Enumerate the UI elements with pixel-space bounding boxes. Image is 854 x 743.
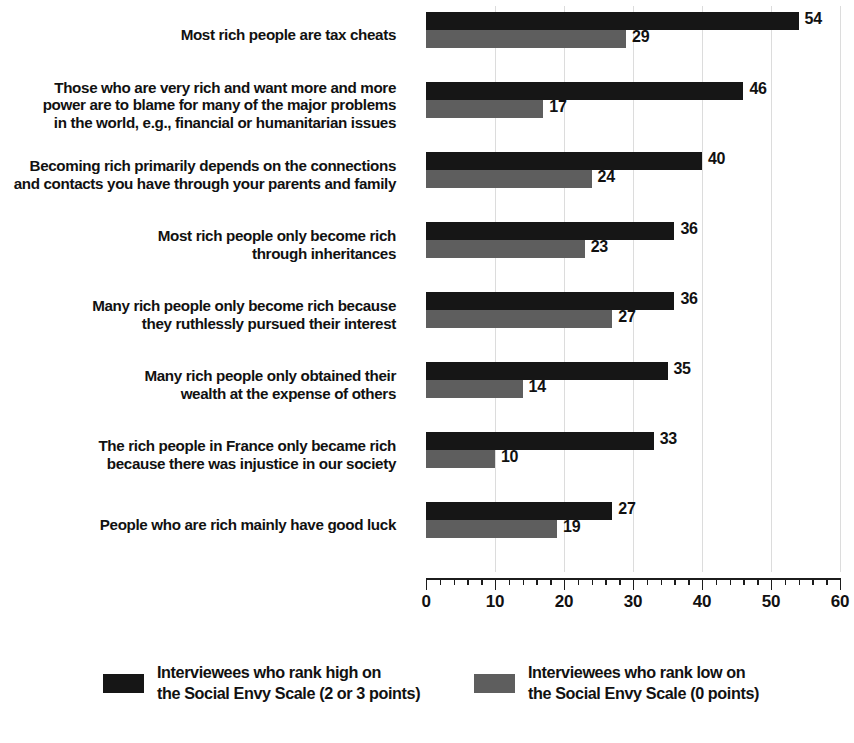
- bar-high[interactable]: [426, 12, 799, 30]
- bar-group: 3514: [426, 350, 854, 420]
- bar-value-label: 46: [749, 80, 766, 98]
- axis-tick-label: 0: [421, 592, 430, 612]
- legend-label-high: Interviewees who rank high on the Social…: [157, 662, 420, 704]
- bar-high[interactable]: [426, 152, 702, 170]
- axis-tick-major: [426, 578, 427, 590]
- axis-tick-label: 20: [555, 592, 573, 612]
- axis-tick-minor: [730, 578, 731, 585]
- bar-low[interactable]: [426, 100, 543, 118]
- axis-tick-label: 40: [693, 592, 711, 612]
- bar-high[interactable]: [426, 362, 668, 380]
- axis-tick-label: 50: [762, 592, 780, 612]
- axis-tick-minor: [785, 578, 786, 585]
- bar-value-label: 23: [591, 238, 608, 256]
- axis-tick-minor: [674, 578, 675, 585]
- bar-value-label: 27: [618, 500, 635, 518]
- bar-chart: Most rich people are tax cheats5429Those…: [0, 0, 854, 743]
- bar-value-label: 33: [660, 430, 677, 448]
- chart-row: Those who are very rich and want more an…: [0, 70, 854, 140]
- axis-tick-minor: [454, 578, 455, 585]
- bar-group: 3310: [426, 420, 854, 490]
- axis-tick-minor: [550, 578, 551, 585]
- bar-group: 5429: [426, 0, 854, 70]
- chart-row: Most rich people are tax cheats5429: [0, 0, 854, 70]
- chart-row: Becoming rich primarily depends on the c…: [0, 140, 854, 210]
- chart-row: Most rich people only become richthrough…: [0, 210, 854, 280]
- chart-legend: Interviewees who rank high on the Social…: [0, 648, 854, 743]
- value-axis: 0102030405060: [426, 578, 840, 624]
- bar-value-label: 54: [805, 10, 822, 28]
- axis-tick-minor: [716, 578, 717, 585]
- bar-value-label: 10: [501, 448, 518, 466]
- legend-entry-low[interactable]: Interviewees who rank low on the Social …: [474, 662, 759, 704]
- bar-value-label: 14: [529, 378, 546, 396]
- bar-high[interactable]: [426, 292, 674, 310]
- category-label: Most rich people only become richthrough…: [0, 210, 410, 280]
- bar-value-label: 36: [680, 290, 697, 308]
- category-label: The rich people in France only became ri…: [0, 420, 410, 490]
- bar-high[interactable]: [426, 502, 612, 520]
- bar-value-label: 19: [563, 518, 580, 536]
- bar-value-label: 29: [632, 28, 649, 46]
- axis-tick-minor: [440, 578, 441, 585]
- chart-row: Many rich people only become rich becaus…: [0, 280, 854, 350]
- axis-tick-major: [495, 578, 496, 590]
- axis-tick-major: [840, 578, 841, 590]
- axis-tick-minor: [799, 578, 800, 585]
- bar-low[interactable]: [426, 30, 626, 48]
- bar-group: 4024: [426, 140, 854, 210]
- axis-tick-minor: [743, 578, 744, 585]
- bar-low[interactable]: [426, 520, 557, 538]
- bar-value-label: 35: [674, 360, 691, 378]
- axis-tick-minor: [647, 578, 648, 585]
- axis-tick-minor: [812, 578, 813, 585]
- legend-label-low: Interviewees who rank low on the Social …: [528, 662, 759, 704]
- bar-high[interactable]: [426, 432, 654, 450]
- bar-low[interactable]: [426, 310, 612, 328]
- axis-tick-major: [633, 578, 634, 590]
- bar-low[interactable]: [426, 380, 523, 398]
- category-label: Many rich people only become rich becaus…: [0, 280, 410, 350]
- axis-tick-minor: [619, 578, 620, 585]
- bar-value-label: 36: [680, 220, 697, 238]
- chart-row: Many rich people only obtained theirweal…: [0, 350, 854, 420]
- axis-tick-minor: [592, 578, 593, 585]
- bar-value-label: 40: [708, 150, 725, 168]
- axis-tick-minor: [481, 578, 482, 585]
- axis-tick-major: [771, 578, 772, 590]
- bar-group: 2719: [426, 490, 854, 560]
- bar-low[interactable]: [426, 170, 592, 188]
- bar-group: 3623: [426, 210, 854, 280]
- bar-high[interactable]: [426, 82, 743, 100]
- axis-tick-label: 30: [624, 592, 642, 612]
- axis-tick-label: 10: [486, 592, 504, 612]
- bar-group: 3627: [426, 280, 854, 350]
- bar-group: 4617: [426, 70, 854, 140]
- bar-low[interactable]: [426, 240, 585, 258]
- chart-row: The rich people in France only became ri…: [0, 420, 854, 490]
- axis-tick-minor: [467, 578, 468, 585]
- axis-tick-minor: [661, 578, 662, 585]
- axis-tick-minor: [605, 578, 606, 585]
- category-label: People who are rich mainly have good luc…: [0, 490, 410, 560]
- axis-tick-minor: [578, 578, 579, 585]
- category-label: Becoming rich primarily depends on the c…: [0, 140, 410, 210]
- axis-tick-major: [702, 578, 703, 590]
- bar-value-label: 24: [598, 168, 615, 186]
- chart-row: People who are rich mainly have good luc…: [0, 490, 854, 560]
- bar-value-label: 17: [549, 98, 566, 116]
- category-label: Those who are very rich and want more an…: [0, 70, 410, 140]
- axis-tick-minor: [523, 578, 524, 585]
- bar-low[interactable]: [426, 450, 495, 468]
- axis-tick-minor: [757, 578, 758, 585]
- legend-swatch-high-icon: [103, 674, 144, 693]
- axis-tick-minor: [536, 578, 537, 585]
- legend-entry-high[interactable]: Interviewees who rank high on the Social…: [103, 662, 420, 704]
- bar-high[interactable]: [426, 222, 674, 240]
- axis-tick-minor: [509, 578, 510, 585]
- category-label: Most rich people are tax cheats: [0, 0, 410, 70]
- bar-value-label: 27: [618, 308, 635, 326]
- axis-tick-major: [564, 578, 565, 590]
- category-label: Many rich people only obtained theirweal…: [0, 350, 410, 420]
- axis-tick-minor: [826, 578, 827, 585]
